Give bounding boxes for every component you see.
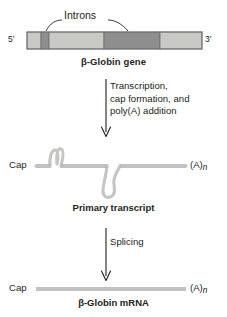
mrna-polya-subscript: n xyxy=(203,286,208,295)
gene-segment-exon-1 xyxy=(27,32,41,49)
transcription-step-line-1: Transcription, xyxy=(110,80,222,93)
primary-transcript-strand xyxy=(36,149,186,198)
mrna-cap-label: Cap xyxy=(9,283,27,293)
intron-leader-left xyxy=(46,20,62,31)
beta-globin-expression-figure: Introns 5′ 3′ β-Globin gene Transcriptio… xyxy=(0,0,227,317)
gene-segment-exon-3 xyxy=(160,32,202,49)
gene-bar xyxy=(27,32,202,49)
transcript-polya-text: (A) xyxy=(190,159,203,170)
splicing-step-label: Splicing xyxy=(110,237,144,247)
transcription-step-label: Transcription, cap formation, and poly(A… xyxy=(110,80,222,118)
mrna-caption: β-Globin mRNA xyxy=(0,298,227,308)
gene-caption: β-Globin gene xyxy=(0,57,227,67)
transcript-polya-subscript: n xyxy=(203,163,208,172)
intron-leader-lines xyxy=(46,20,128,31)
gene-segment-intron-2 xyxy=(104,32,160,49)
transcription-step-line-2: cap formation, and xyxy=(110,93,222,106)
mrna-strand xyxy=(36,288,186,291)
transcript-intron-loop-large xyxy=(103,166,120,197)
transcription-step-line-3: poly(A) addition xyxy=(110,105,222,118)
intron-leader-right xyxy=(108,20,128,31)
mrna-polya-text: (A) xyxy=(190,282,203,293)
five-prime-label: 5′ xyxy=(8,35,14,44)
mrna-polya-label: (A)n xyxy=(190,283,207,295)
transcript-polya-label: (A)n xyxy=(190,160,207,172)
primary-transcript-caption: Primary transcript xyxy=(0,203,227,213)
gene-segment-intron-1 xyxy=(41,32,49,49)
transcript-intron-loop-small xyxy=(50,149,63,166)
transcript-cap-label: Cap xyxy=(9,160,27,170)
introns-label: Introns xyxy=(64,10,96,21)
three-prime-label: 3′ xyxy=(205,35,211,44)
gene-segment-exon-2 xyxy=(49,32,104,49)
